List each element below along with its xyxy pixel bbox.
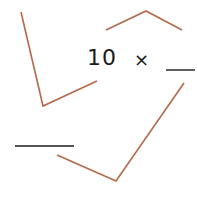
left-arc-line: [21, 12, 97, 106]
multiply-sign: ×: [134, 47, 149, 73]
top-arc-line: [106, 11, 182, 30]
diagram-canvas: [0, 0, 197, 203]
right-arc-line: [57, 83, 184, 181]
operand-text: 10: [87, 45, 117, 71]
